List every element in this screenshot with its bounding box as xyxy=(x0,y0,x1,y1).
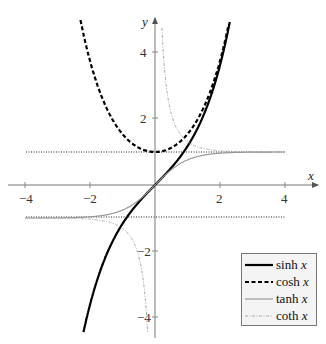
xtick-neg4: −4 xyxy=(19,191,33,206)
thin-line-icon xyxy=(245,294,273,304)
dashed-line-icon xyxy=(245,277,273,287)
legend-item-tanh: tanh x xyxy=(245,290,313,307)
xtick-4: 4 xyxy=(281,191,288,206)
x-axis-label: x xyxy=(307,168,314,183)
ytick-4: 4 xyxy=(140,45,147,60)
curve-sinh xyxy=(84,22,230,332)
curve-cosh xyxy=(81,20,229,152)
xtick-neg2: −2 xyxy=(83,191,97,206)
ytick-neg4: −4 xyxy=(137,310,151,325)
legend: sinh x cosh x tanh x coth x xyxy=(241,253,317,326)
legend-item-coth: coth x xyxy=(245,307,313,324)
dashdot-line-icon xyxy=(245,311,273,321)
solid-line-icon xyxy=(245,260,273,270)
legend-item-cosh: cosh x xyxy=(245,273,313,290)
xtick-2: 2 xyxy=(216,191,223,206)
y-axis-label: y xyxy=(140,14,148,29)
legend-item-sinh: sinh x xyxy=(245,256,313,273)
ytick-2: 2 xyxy=(140,111,147,126)
